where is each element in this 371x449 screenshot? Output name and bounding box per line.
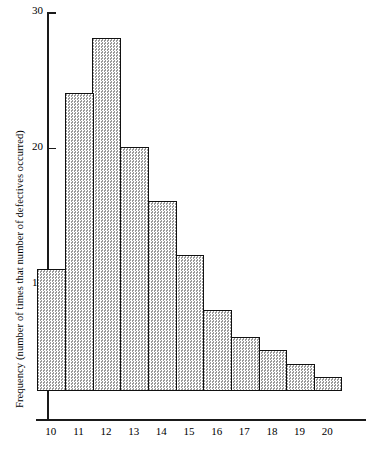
x-tick-label-11: 11 [65, 425, 93, 437]
x-tick-label-20: 20 [313, 425, 341, 437]
bars-group [37, 0, 341, 420]
bar-13 [120, 147, 149, 391]
histogram-figure: Frequency (number of times that number o… [0, 0, 371, 449]
bar-10 [37, 269, 66, 391]
x-tick-label-16: 16 [203, 425, 231, 437]
bar-11 [65, 93, 94, 391]
bar-14 [148, 201, 177, 391]
bar-19 [286, 364, 315, 391]
x-tick-label-15: 15 [175, 425, 203, 437]
plot-area: 102030 1011121314151617181920 [0, 0, 371, 449]
x-tick-label-10: 10 [37, 425, 65, 437]
x-tick-label-18: 18 [258, 425, 286, 437]
bar-12 [92, 38, 121, 391]
x-tick-label-12: 12 [92, 425, 120, 437]
bar-16 [203, 310, 232, 391]
bar-15 [175, 255, 204, 391]
x-tick-label-19: 19 [286, 425, 314, 437]
bar-17 [230, 337, 259, 391]
x-tick-label-13: 13 [120, 425, 148, 437]
x-tick-label-14: 14 [148, 425, 176, 437]
bar-18 [258, 350, 287, 391]
bar-20 [313, 377, 342, 391]
x-axis-ticks: 1011121314151617181920 [37, 425, 341, 447]
x-tick-label-17: 17 [230, 425, 258, 437]
